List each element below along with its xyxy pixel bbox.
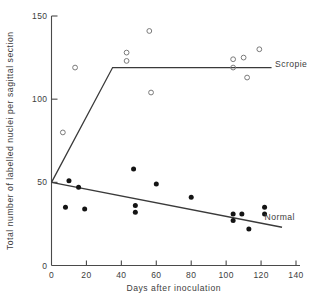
- y-tick-label-0: 0: [42, 261, 47, 271]
- data-point-scropie-5: [149, 90, 154, 95]
- data-point-scropie-1: [73, 65, 78, 70]
- scatter-plot-figure: 020406080100120140050100150Days after in…: [0, 0, 317, 299]
- data-point-normal-13: [262, 205, 267, 210]
- x-tick-label-120: 120: [253, 270, 268, 280]
- x-tick-label-20: 20: [81, 270, 91, 280]
- data-point-scropie-2: [147, 29, 152, 34]
- data-point-scropie-4: [124, 59, 129, 64]
- x-tick-label-0: 0: [49, 270, 54, 280]
- y-tick-label-50: 50: [37, 177, 47, 187]
- data-point-normal-11: [239, 211, 244, 216]
- data-point-normal-2: [63, 205, 68, 210]
- data-point-normal-6: [133, 210, 138, 215]
- x-tick-label-80: 80: [186, 270, 196, 280]
- x-tick-label-140: 140: [288, 270, 303, 280]
- fit-line-normal: [52, 182, 283, 227]
- plot-canvas: 020406080100120140050100150Days after in…: [0, 0, 317, 299]
- fit-line-scropie: [52, 68, 272, 183]
- x-tick-label-60: 60: [151, 270, 161, 280]
- series-label-normal: Normal: [265, 212, 295, 222]
- y-tick-label-150: 150: [32, 11, 47, 21]
- data-point-normal-5: [133, 203, 138, 208]
- data-point-normal-8: [189, 195, 194, 200]
- data-point-scropie-0: [60, 130, 65, 135]
- x-axis-title: Days after inoculation: [126, 283, 221, 293]
- data-point-scropie-8: [241, 55, 246, 60]
- data-point-scropie-9: [257, 47, 262, 52]
- data-point-scropie-3: [124, 50, 129, 55]
- y-tick-label-100: 100: [32, 94, 47, 104]
- x-tick-label-40: 40: [116, 270, 126, 280]
- data-point-normal-1: [76, 185, 81, 190]
- data-point-normal-3: [82, 206, 87, 211]
- data-point-normal-10: [231, 218, 236, 223]
- data-point-normal-12: [246, 226, 251, 231]
- x-tick-label-100: 100: [218, 270, 233, 280]
- y-axis-title: Total number of labelled nuclei per sagi…: [5, 31, 15, 250]
- data-point-normal-0: [66, 178, 71, 183]
- series-label-scropie: Scropie: [275, 59, 307, 69]
- data-point-normal-4: [131, 167, 136, 172]
- data-point-scropie-10: [245, 75, 250, 80]
- data-point-normal-7: [154, 181, 159, 186]
- data-point-normal-9: [231, 211, 236, 216]
- data-point-scropie-7: [231, 57, 236, 62]
